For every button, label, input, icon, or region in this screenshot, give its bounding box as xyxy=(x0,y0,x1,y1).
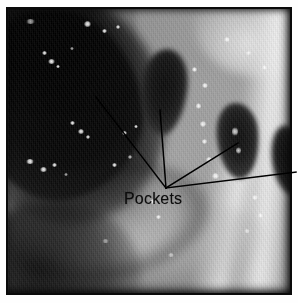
annotation-label-pockets: Pockets xyxy=(124,190,182,208)
endoscopic-image-plate xyxy=(6,7,292,295)
image-grain-overlay xyxy=(6,7,292,295)
figure-root: Pockets xyxy=(0,0,298,303)
